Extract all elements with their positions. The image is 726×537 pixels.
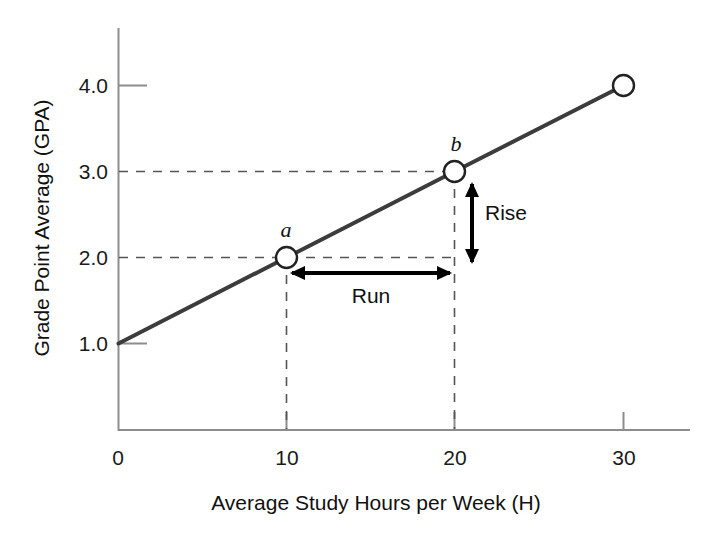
- y-tick-label-3: 3.0: [79, 160, 108, 183]
- x-tick-label-10: 10: [275, 446, 298, 469]
- point-a-label: a: [281, 217, 292, 242]
- x-tick-label-20: 20: [443, 446, 466, 469]
- data-point-b[interactable]: [444, 161, 465, 182]
- y-tick-label-2: 2.0: [79, 246, 108, 269]
- point-b-label: b: [451, 131, 462, 156]
- x-tick-label-0: 0: [112, 446, 124, 469]
- y-tick-label-1: 1.0: [79, 332, 108, 355]
- y-tick-label-4: 4.0: [79, 74, 108, 97]
- rise-label: Rise: [485, 201, 527, 224]
- chart-figure: a b Rise Run 4.0 3.0 2.0 1.0 0 10: [0, 0, 726, 537]
- data-point-c[interactable]: [613, 75, 634, 96]
- data-point-a[interactable]: [276, 247, 297, 268]
- gpa-study-hours-line-chart: a b Rise Run 4.0 3.0 2.0 1.0 0 10: [0, 0, 726, 537]
- run-label: Run: [352, 284, 391, 307]
- x-tick-label-30: 30: [612, 446, 635, 469]
- y-axis-title: Grade Point Average (GPA): [30, 99, 53, 356]
- x-axis-title: Average Study Hours per Week (H): [211, 491, 541, 514]
